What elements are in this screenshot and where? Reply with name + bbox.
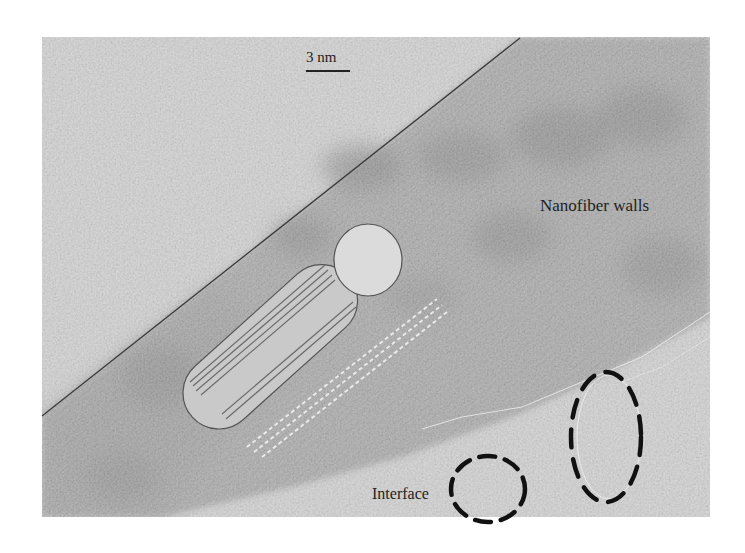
scale-bar-label: 3 nm: [306, 49, 336, 66]
interface-label: Interface: [372, 485, 429, 503]
interface-ellipse-marker: [571, 372, 641, 502]
interface-circle-marker: [451, 456, 525, 522]
nanotube-cylinder-icon: [168, 224, 402, 444]
scale-bar: [306, 70, 350, 72]
schematic-overlay: [0, 0, 745, 553]
nanofiber-walls-label: Nanofiber walls: [540, 196, 649, 216]
